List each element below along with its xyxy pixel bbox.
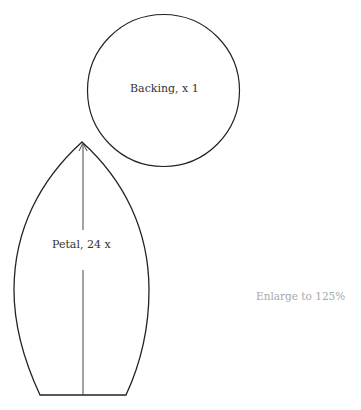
petal-outline — [14, 142, 149, 395]
backing-label: Backing, x 1 — [130, 82, 199, 95]
petal-label: Petal, 24 x — [52, 238, 111, 251]
enlarge-note: Enlarge to 125% — [256, 290, 345, 302]
pattern-canvas — [0, 0, 361, 410]
